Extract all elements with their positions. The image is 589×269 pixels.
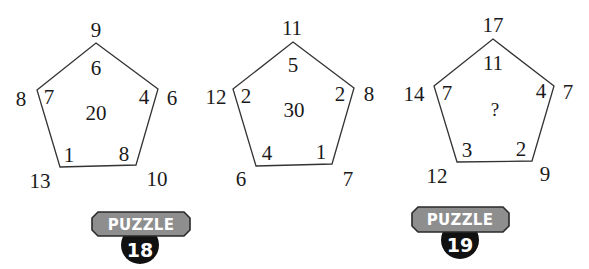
badge-label: PUZZLE [427, 211, 494, 229]
center-number: 30 [284, 98, 305, 122]
outer-bottom-left-number: 6 [236, 167, 247, 191]
outer-left-number: 12 [206, 85, 227, 109]
outer-bottom-right-number: 7 [343, 167, 354, 191]
badge-label: PUZZLE [108, 216, 175, 234]
outer-bottom-left-number: 12 [427, 164, 448, 188]
badge-number: 19 [447, 234, 473, 256]
puzzle-badge-19: PUZZLE 19 [412, 207, 509, 259]
badge-number: 18 [127, 239, 153, 261]
inner-right-number: 4 [536, 79, 547, 103]
outer-top-number: 9 [91, 18, 102, 42]
inner-bottom-right-number: 2 [516, 137, 527, 161]
puzzle-badge-18: PUZZLE 18 [92, 212, 190, 264]
center-question-mark: ? [491, 99, 499, 120]
outer-left-number: 8 [16, 87, 27, 111]
outer-left-number: 14 [404, 82, 426, 106]
outer-bottom-right-number: 9 [540, 162, 551, 186]
inner-bottom-left-number: 4 [262, 141, 273, 165]
inner-top-number: 5 [288, 53, 299, 77]
center-number: 20 [86, 101, 107, 125]
inner-left-number: 7 [442, 81, 453, 105]
inner-bottom-left-number: 3 [462, 138, 473, 162]
outer-top-number: 17 [483, 13, 504, 37]
inner-right-number: 4 [139, 85, 150, 109]
outer-bottom-left-number: 13 [30, 169, 51, 193]
inner-bottom-right-number: 1 [316, 140, 327, 164]
inner-right-number: 2 [335, 82, 346, 106]
inner-top-number: 6 [91, 56, 102, 80]
inner-left-number: 2 [241, 84, 252, 108]
pentagon-puzzle-b: 11 12 8 6 7 5 2 2 4 1 30 [206, 16, 375, 191]
pentagon-puzzle-c: 17 14 7 12 9 11 7 4 3 2 ? [404, 13, 574, 188]
inner-top-number: 11 [483, 51, 503, 75]
outer-top-number: 11 [282, 16, 302, 40]
inner-bottom-left-number: 1 [64, 143, 75, 167]
inner-left-number: 7 [44, 85, 55, 109]
puzzle-sheet: 9 8 6 13 10 6 7 4 1 8 20 11 12 8 6 7 5 2… [0, 0, 589, 269]
outer-bottom-right-number: 10 [147, 167, 168, 191]
outer-right-number: 7 [563, 80, 574, 104]
pentagon-puzzle-a: 9 8 6 13 10 6 7 4 1 8 20 [16, 18, 178, 193]
inner-bottom-right-number: 8 [119, 142, 130, 166]
outer-right-number: 6 [167, 86, 178, 110]
outer-right-number: 8 [364, 82, 375, 106]
